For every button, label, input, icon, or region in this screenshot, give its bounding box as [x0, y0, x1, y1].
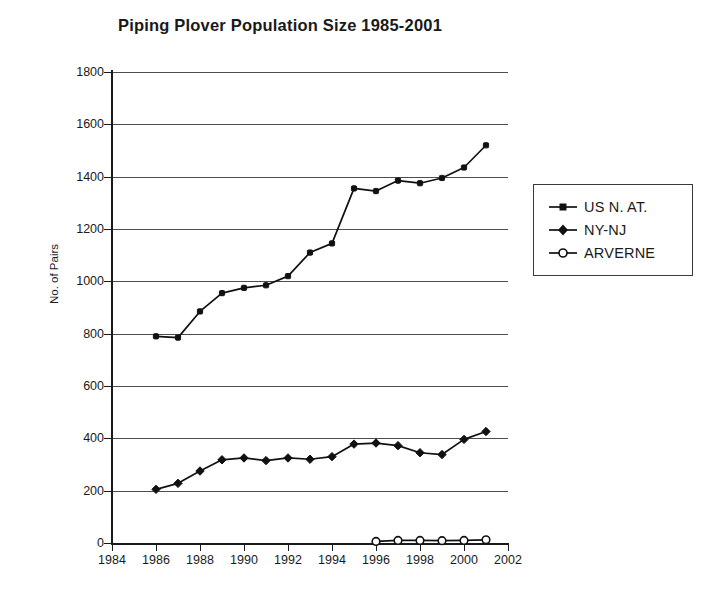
data-point-marker: [241, 285, 246, 290]
legend-item-us-n-at[interactable]: US N. AT.: [534, 195, 692, 218]
series-line: [156, 145, 486, 337]
data-point-marker: [373, 188, 378, 193]
data-point-marker: [416, 537, 424, 545]
legend-marker-filled-diamond-icon: [548, 223, 578, 237]
y-axis-tick-mark: [104, 543, 111, 544]
chart-figure: Piping Plover Population Size 1985-2001 …: [0, 0, 724, 599]
data-point-marker: [438, 537, 446, 545]
legend-label: US N. AT.: [584, 199, 648, 215]
series-plot-layer: [0, 0, 724, 599]
data-point-marker: [196, 467, 204, 475]
y-axis-tick-mark: [104, 72, 111, 73]
y-axis-tick-mark: [104, 386, 111, 387]
data-point-marker: [482, 536, 490, 544]
data-point-marker: [307, 250, 312, 255]
y-axis-tick-mark: [104, 491, 111, 492]
data-point-marker: [218, 456, 226, 464]
legend-label: NY-NJ: [584, 222, 626, 238]
data-point-marker: [439, 175, 444, 180]
y-axis-tick-mark: [104, 438, 111, 439]
data-point-marker: [351, 186, 356, 191]
series-line: [156, 432, 486, 490]
data-point-marker: [460, 537, 468, 545]
data-point-marker: [175, 335, 180, 340]
data-point-marker: [372, 439, 380, 447]
data-point-marker: [306, 455, 314, 463]
legend-item-ny-nj[interactable]: NY-NJ: [534, 218, 692, 241]
y-axis-tick-mark: [104, 124, 111, 125]
data-point-marker: [263, 283, 268, 288]
data-point-marker: [483, 143, 488, 148]
series-line: [376, 540, 486, 542]
data-point-marker: [372, 538, 380, 546]
y-axis-tick-mark: [104, 281, 111, 282]
data-point-marker: [461, 165, 466, 170]
data-point-marker: [417, 181, 422, 186]
data-point-marker: [328, 452, 336, 460]
legend-label: ARVERNE: [584, 245, 655, 261]
chart-legend: US N. AT. NY-NJ ARVERNE: [533, 184, 693, 276]
legend-marker-open-circle-icon: [548, 246, 578, 260]
data-point-marker: [416, 449, 424, 457]
data-point-marker: [197, 309, 202, 314]
y-axis-tick-mark: [104, 334, 111, 335]
series-arverne: [372, 536, 490, 545]
data-point-marker: [152, 485, 160, 493]
series-us-n-at: [153, 143, 488, 341]
series-ny-nj: [152, 427, 490, 493]
data-point-marker: [329, 241, 334, 246]
data-point-marker: [285, 274, 290, 279]
data-point-marker: [262, 456, 270, 464]
data-point-marker: [394, 441, 402, 449]
legend-item-arverne[interactable]: ARVERNE: [534, 241, 692, 264]
data-point-marker: [284, 454, 292, 462]
data-point-marker: [153, 334, 158, 339]
data-point-marker: [350, 440, 358, 448]
data-point-marker: [219, 291, 224, 296]
data-point-marker: [174, 479, 182, 487]
data-point-marker: [394, 537, 402, 545]
legend-marker-filled-square-icon: [548, 200, 578, 214]
y-axis-tick-mark: [104, 177, 111, 178]
data-point-marker: [240, 454, 248, 462]
data-point-marker: [395, 178, 400, 183]
data-point-marker: [482, 427, 490, 435]
y-axis-tick-mark: [104, 229, 111, 230]
